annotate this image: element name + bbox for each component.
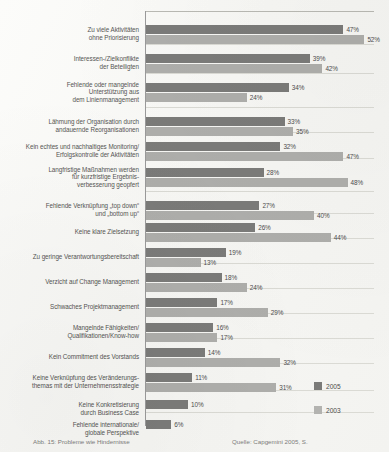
category-label: Kein echtes und nachhaltiges Monitoring/… xyxy=(1,143,139,158)
bar-value-label: 28% xyxy=(267,168,280,177)
bar-value-label: 14% xyxy=(208,348,221,357)
bar-2005 xyxy=(146,117,285,126)
legend-swatch xyxy=(314,406,322,414)
bar-2005 xyxy=(146,142,280,151)
category-label: Kein Commitment des Vorstands xyxy=(1,353,139,361)
bar-value-label: 31% xyxy=(279,383,292,392)
bar-value-label: 48% xyxy=(351,178,364,187)
bar-2005 xyxy=(146,420,171,429)
bar-value-label: 34% xyxy=(292,83,305,92)
bar-value-label: 24% xyxy=(250,93,263,102)
bar-value-label: 19% xyxy=(229,248,242,257)
category-label: Lähmung der Organisation durchandauernde… xyxy=(1,118,139,133)
bar-2005 xyxy=(146,54,310,63)
category-label: Keine Verknüpfung des Veränderungs-thema… xyxy=(1,374,139,389)
category-label: Fehlende Verknüpfung „top down“und „bott… xyxy=(1,202,139,217)
bar-2003 xyxy=(146,258,201,267)
bar-value-label: 33% xyxy=(288,117,301,126)
bar-2003 xyxy=(146,211,314,220)
bar-value-label: 10% xyxy=(191,400,204,409)
bar-value-label: 17% xyxy=(220,333,233,342)
bar-value-label: 27% xyxy=(262,201,275,210)
bar-value-label: 39% xyxy=(313,54,326,63)
bar-2005 xyxy=(146,323,213,332)
category-label: Fehlende oder mangelndeUnterstützung aus… xyxy=(1,81,139,104)
category-label: Keine Konkretisierungdurch Business Case xyxy=(1,401,139,416)
category-label: Interessen-/Zielkonflikteder Beteiligten xyxy=(1,55,139,70)
bar-2005 xyxy=(146,25,343,34)
category-label-column: Zu viele Aktivitätenohne PriorisierungIn… xyxy=(0,11,142,426)
bar-2003 xyxy=(146,233,331,242)
bar-2005 xyxy=(146,201,259,210)
category-label: Zu geringe Verantwortungsbereitschaft xyxy=(1,253,139,261)
axis-top-line xyxy=(146,11,374,12)
bar-value-label: 40% xyxy=(317,211,330,220)
bar-value-label: 52% xyxy=(367,35,380,44)
bar-2005 xyxy=(146,248,226,257)
bar-value-label: 18% xyxy=(225,273,238,282)
bar-2003 xyxy=(146,93,247,102)
bar-2005 xyxy=(146,400,188,409)
category-label: Keine klare Zielsetzung xyxy=(1,228,139,236)
bar-2005 xyxy=(146,83,289,92)
bar-value-label: 47% xyxy=(346,25,359,34)
bar-value-label: 29% xyxy=(271,308,284,317)
category-label: Verzicht auf Change Management xyxy=(1,278,139,286)
bar-value-label: 44% xyxy=(334,233,347,242)
grid-line xyxy=(146,107,374,108)
category-label: Langfristige Maßnahmen werdenfür kurzfri… xyxy=(1,166,139,189)
bar-2005 xyxy=(146,298,217,307)
bar-2005 xyxy=(146,223,255,232)
caption-left-text: Abb. 15: Probleme wie Hindernisse xyxy=(33,438,130,445)
bar-2003 xyxy=(146,333,217,342)
bar-2003 xyxy=(146,127,293,136)
bar-value-label: 17% xyxy=(220,298,233,307)
bar-value-label: 16% xyxy=(216,323,229,332)
bar-2005 xyxy=(146,273,222,282)
category-label: Mangelnde Fähigkeiten/Qualifikationen/Kn… xyxy=(1,324,139,339)
legend-label: 2005 xyxy=(326,382,341,391)
grid-line xyxy=(146,191,374,192)
category-label: Fehlende internationale/globale Perspekt… xyxy=(1,421,139,436)
grid-line xyxy=(146,44,374,45)
bar-2005 xyxy=(146,168,264,177)
bar-2005 xyxy=(146,373,192,382)
bar-value-label: 32% xyxy=(283,142,296,151)
bar-2003 xyxy=(146,283,247,292)
bar-2003 xyxy=(146,308,268,317)
category-label: Zu viele Aktivitätenohne Priorisierung xyxy=(1,26,139,41)
category-label: Schwaches Projektmanagement xyxy=(1,303,139,311)
bar-value-label: 42% xyxy=(325,64,338,73)
chart-container: Zu viele Aktivitätenohne PriorisierungIn… xyxy=(0,0,389,452)
bar-2003 xyxy=(146,64,322,73)
bar-2003 xyxy=(146,35,364,44)
bar-2003 xyxy=(146,358,280,367)
bar-value-label: 6% xyxy=(174,420,183,429)
bar-2005 xyxy=(146,348,205,357)
bar-2003 xyxy=(146,178,348,187)
legend-label: 2003 xyxy=(326,406,341,415)
caption-right-text: Quelle: Capgemini 2005, S. xyxy=(232,438,308,445)
legend-swatch xyxy=(314,382,322,390)
bar-value-label: 47% xyxy=(346,152,359,161)
plot-area: 47%52%39%42%34%24%33%35%32%47%28%48%27%4… xyxy=(145,11,373,426)
bar-value-label: 26% xyxy=(258,223,271,232)
figure-caption: Abb. 15: Probleme wie Hindernisse Quelle… xyxy=(0,437,389,452)
bar-2003 xyxy=(146,383,276,392)
bar-value-label: 32% xyxy=(283,358,296,367)
bar-value-label: 24% xyxy=(250,283,263,292)
bar-2003 xyxy=(146,152,343,161)
bar-value-label: 35% xyxy=(296,127,309,136)
grid-line xyxy=(146,73,374,74)
bar-value-label: 13% xyxy=(204,258,217,267)
bar-value-label: 11% xyxy=(195,373,207,382)
